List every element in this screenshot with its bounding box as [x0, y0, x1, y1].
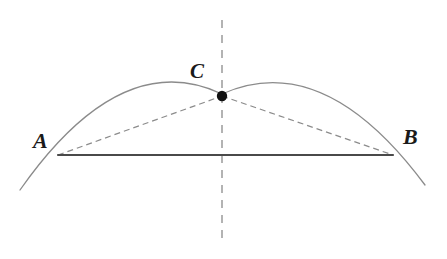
point-label-b: B	[403, 126, 418, 148]
chord-c-to-b-dashed	[222, 96, 393, 155]
chord-a-to-c-dashed	[58, 96, 222, 155]
geometry-canvas	[0, 0, 447, 259]
point-label-c: C	[190, 61, 204, 82]
point-label-a: A	[33, 130, 48, 152]
point-c-marker	[217, 91, 227, 101]
geometry-figure: A B C	[0, 0, 447, 259]
